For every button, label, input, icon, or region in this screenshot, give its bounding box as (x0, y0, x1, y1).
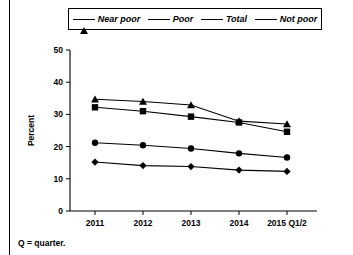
square-marker-icon (236, 119, 242, 125)
circle-marker-icon (188, 145, 194, 151)
series-not-poor (91, 158, 290, 175)
x-tick-label: 2015 Q1/2 (267, 218, 307, 228)
y-tick-label: 10 (54, 174, 64, 184)
plot-area: 01020304050Percent20112012201320142015 Q… (0, 0, 353, 255)
square-marker-icon (188, 113, 194, 119)
x-tick-label: 2013 (182, 218, 201, 228)
x-tick-label: 2012 (134, 218, 153, 228)
series-total (92, 140, 290, 161)
chart-footnote: Q = quarter. (18, 238, 65, 248)
circle-marker-icon (92, 140, 98, 146)
diamond-marker-icon (283, 168, 290, 175)
y-tick-label: 30 (54, 109, 64, 119)
y-axis-title: Percent (26, 115, 36, 146)
series-near-poor (91, 95, 291, 127)
circle-marker-icon (140, 142, 146, 148)
x-tick-label: 2011 (86, 218, 105, 228)
square-marker-icon (140, 108, 146, 114)
square-marker-icon (92, 104, 98, 110)
diamond-marker-icon (187, 163, 194, 170)
circle-marker-icon (284, 154, 290, 160)
circle-marker-icon (236, 150, 242, 156)
y-tick-label: 40 (54, 77, 64, 87)
square-marker-icon (284, 129, 290, 135)
x-tick-label: 2014 (230, 218, 249, 228)
y-tick-label: 50 (54, 45, 64, 55)
diamond-marker-icon (139, 162, 146, 169)
y-tick-label: 20 (54, 142, 64, 152)
line-chart-svg: 01020304050Percent20112012201320142015 Q… (0, 0, 353, 255)
diamond-marker-icon (91, 158, 98, 165)
diamond-marker-icon (235, 167, 242, 174)
series-poor (92, 104, 290, 135)
chart-figure: Near poor Poor Total Not poor 0102030 (0, 0, 353, 255)
y-tick-label: 0 (58, 206, 63, 216)
